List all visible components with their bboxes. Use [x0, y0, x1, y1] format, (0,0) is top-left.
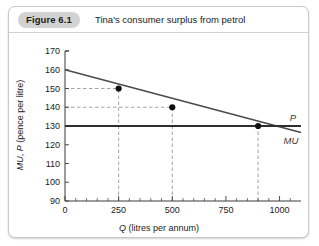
y-axis-title-text: (pence per litre): [15, 80, 25, 146]
consumer-surplus-chart: 9010011012013014015016017002505007501000…: [9, 33, 310, 238]
figure-number-badge: Figure 6.1: [18, 12, 80, 28]
y-axis-tick-label: 130: [45, 121, 60, 131]
x-axis-title: Q (litres per annum): [119, 223, 199, 233]
y-axis-tick-label: 170: [45, 46, 60, 56]
y-axis-tick-label: 100: [45, 177, 60, 187]
figure-header: Figure 6.1 Tina's consumer surplus from …: [9, 7, 308, 33]
chart-plot-area: 9010011012013014015016017002505007501000…: [9, 33, 308, 238]
series-line-mu: [65, 70, 301, 133]
curve-label-mu: MU: [284, 135, 299, 146]
y-axis-tick-label: 150: [45, 84, 60, 94]
guide-lines-layer: [65, 89, 258, 202]
y-axis-tick-label: 90: [50, 196, 60, 206]
curve-label-p: P: [290, 112, 297, 123]
axis-tick-labels-layer: 9010011012013014015016017002505007501000: [45, 46, 290, 215]
x-axis-tick-label: 0: [62, 205, 67, 215]
x-axis-tick-label: 1000: [270, 205, 290, 215]
y-axis-title-symbol-1: MU: [15, 156, 25, 170]
x-axis-title-text: (litres per annum): [126, 223, 199, 233]
y-axis-tick-label: 120: [45, 140, 60, 150]
figure-title: Tina's consumer surplus from petrol: [95, 14, 245, 26]
x-axis-tick-label: 500: [165, 205, 180, 215]
y-axis-tick-label: 160: [45, 65, 60, 75]
y-axis-title: MU, P (pence per litre): [15, 80, 25, 171]
x-axis-title-symbol: Q: [119, 223, 126, 233]
data-point-marker: [255, 123, 261, 129]
y-axis-tick-label: 110: [46, 159, 60, 169]
y-axis-tick-label: 140: [45, 102, 60, 112]
data-point-marker: [116, 85, 122, 91]
figure-card: Figure 6.1 Tina's consumer surplus from …: [8, 6, 309, 238]
x-axis-tick-label: 750: [218, 205, 233, 215]
data-series-layer: [65, 70, 301, 133]
x-axis-tick-label: 250: [111, 205, 126, 215]
data-point-marker: [169, 104, 175, 110]
